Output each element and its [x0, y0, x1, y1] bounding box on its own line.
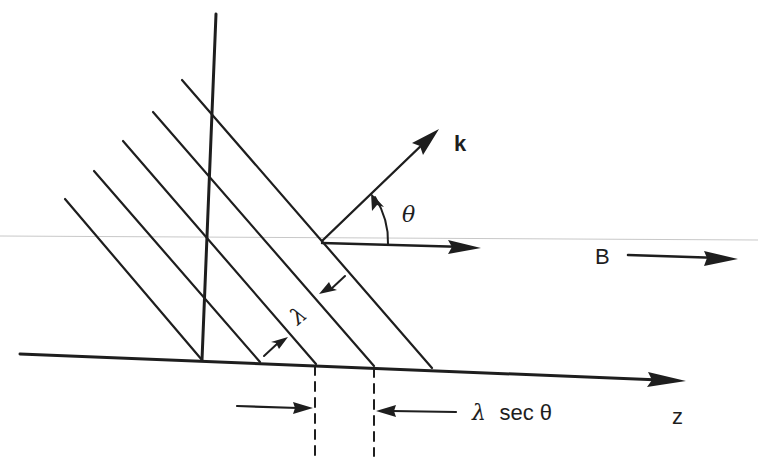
label-theta: θ [402, 202, 415, 227]
label-z: z [672, 404, 683, 429]
wavefront-1 [65, 199, 202, 360]
wavelength-marker: λ [264, 276, 345, 356]
wavefront-5 [182, 80, 432, 368]
z-axis [20, 354, 686, 387]
wave-vector-k [322, 129, 439, 241]
label-lambda-sec-theta: λ sec θ [471, 400, 552, 425]
lambda-arrow-upper-icon [319, 282, 337, 294]
b-field-arrowhead-icon [704, 251, 738, 266]
wavefront-3 [123, 141, 316, 364]
projected-spacing: λ sec θ [237, 366, 552, 456]
wavefront-2 [94, 171, 260, 362]
spacing-arrow-right-icon [376, 405, 396, 417]
wavefront-4 [153, 112, 374, 366]
z-axis-arrowhead-icon [647, 372, 686, 387]
label-lambda: λ [284, 301, 312, 330]
theta-arrowhead-icon [371, 193, 384, 211]
angle-theta-arc [371, 193, 388, 244]
b-direction-arrowhead-icon [448, 240, 481, 254]
label-k: k [454, 131, 467, 156]
wave-diagram: k θ B λ λ sec θ z [0, 0, 758, 467]
label-B: B [595, 244, 610, 269]
spacing-arrow-left-icon [293, 402, 313, 414]
wavefronts [65, 80, 432, 368]
magnetic-field-b: B [595, 244, 738, 269]
scan-artifact-line [0, 236, 758, 240]
b-direction-arrow [322, 240, 481, 254]
